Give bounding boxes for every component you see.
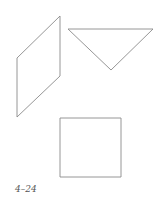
parallelogram-shape bbox=[17, 16, 60, 117]
figure-canvas bbox=[0, 0, 161, 204]
triangle-shape bbox=[68, 29, 153, 70]
square-shape bbox=[60, 118, 121, 177]
figure-caption: 4–24 bbox=[15, 184, 37, 194]
